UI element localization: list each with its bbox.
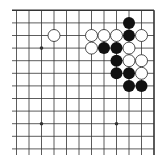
white-stone: [123, 42, 135, 54]
black-stone: [123, 67, 135, 79]
black-stone: [136, 80, 148, 92]
white-stone: [86, 42, 98, 54]
black-stone: [111, 42, 123, 54]
black-stone: [123, 17, 135, 29]
white-stone: [136, 30, 148, 42]
black-stone: [123, 80, 135, 92]
go-board[interactable]: [0, 0, 161, 159]
stones: [48, 17, 148, 92]
white-stone: [136, 55, 148, 67]
black-stone: [111, 55, 123, 67]
white-stone: [86, 30, 98, 42]
star-point: [40, 122, 44, 126]
star-point: [40, 46, 44, 50]
star-point: [115, 122, 119, 126]
white-stone: [111, 30, 123, 42]
white-stone: [98, 30, 110, 42]
black-stone: [111, 67, 123, 79]
white-stone: [123, 55, 135, 67]
white-stone: [136, 67, 148, 79]
black-stone: [98, 42, 110, 54]
black-stone: [123, 30, 135, 42]
white-stone: [48, 30, 60, 42]
